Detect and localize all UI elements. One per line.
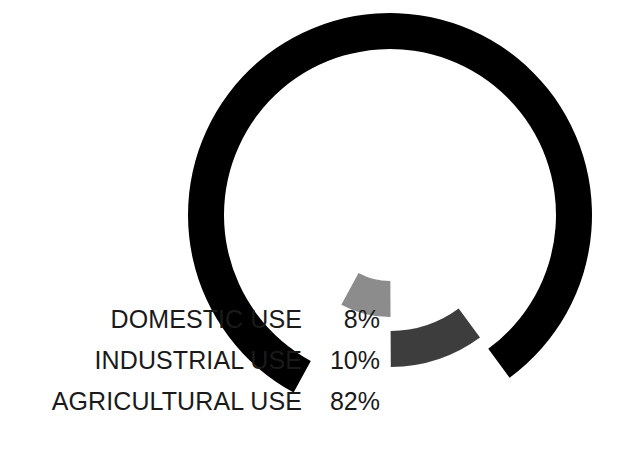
legend-row-domestic-use[interactable]: DOMESTIC USE 8% [0, 299, 380, 340]
legend-value-agricultural-use: 82% [302, 389, 380, 414]
legend-label-domestic-use: DOMESTIC USE [111, 307, 303, 332]
legend-label-industrial-use: INDUSTRIAL USE [95, 348, 302, 373]
legend-row-agricultural-use[interactable]: AGRICULTURAL USE 82% [0, 381, 380, 422]
pie-slice-industrial-use[interactable] [391, 308, 480, 367]
legend-label-agricultural-use: AGRICULTURAL USE [52, 389, 302, 414]
chart-legend: DOMESTIC USE 8% INDUSTRIAL USE 10% AGRIC… [0, 299, 380, 422]
legend-row-industrial-use[interactable]: INDUSTRIAL USE 10% [0, 340, 380, 381]
donut-chart: DOMESTIC USE 8% INDUSTRIAL USE 10% AGRIC… [0, 0, 618, 452]
legend-value-domestic-use: 8% [302, 307, 380, 332]
legend-value-industrial-use: 10% [302, 348, 380, 373]
